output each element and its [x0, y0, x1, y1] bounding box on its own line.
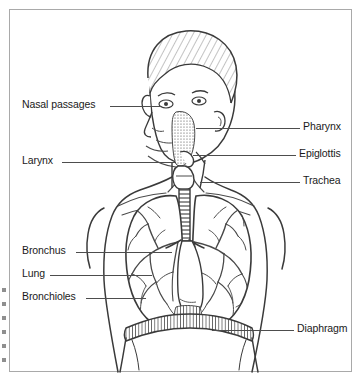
respiratory-system-figure: Nasal passages Larynx Bronchus Lung Bron…: [0, 0, 363, 383]
label-larynx: Larynx: [22, 154, 53, 166]
page-edge-mark: [2, 330, 6, 334]
page-edge-mark: [2, 344, 6, 348]
page-edge-mark: [2, 302, 6, 306]
label-trachea: Trachea: [303, 174, 340, 186]
label-nasal-passages: Nasal passages: [22, 98, 95, 110]
label-pharynx: Pharynx: [303, 120, 341, 132]
page-edge-mark: [2, 288, 6, 292]
lung-left: [126, 196, 183, 328]
label-lung: Lung: [22, 267, 45, 279]
abdomen-outline: [120, 338, 258, 372]
page-edge-mark: [2, 358, 6, 362]
label-diaphragm: Diaphragm: [297, 322, 347, 334]
label-bronchus: Bronchus: [22, 244, 66, 256]
label-bronchioles: Bronchioles: [22, 290, 76, 302]
larynx: [173, 166, 194, 190]
label-epiglottis: Epiglottis: [299, 147, 341, 159]
page-edge-mark: [2, 316, 6, 320]
